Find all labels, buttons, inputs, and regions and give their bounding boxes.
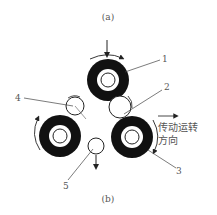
direction-text-line1: 传动运转 [158,121,198,133]
label-1: 1 [162,54,168,64]
label-5: 5 [63,181,69,191]
label-3: 3 [176,166,182,176]
roller-5 [88,138,104,154]
roller-3 [111,116,153,158]
label-4: 4 [15,93,21,103]
roller-2 [109,96,131,118]
roller-diagram: (a) 1 2 3 4 5 传动运转 方向 ( [0,0,217,215]
caption-bottom: (b) [102,194,115,204]
direction-text-line2: 方向 [158,134,178,146]
roller-1 [87,59,129,101]
rotation-arrow-icon [90,55,122,59]
roller-left [39,115,81,157]
label-2: 2 [164,82,170,92]
caption-top: (a) [102,12,114,22]
